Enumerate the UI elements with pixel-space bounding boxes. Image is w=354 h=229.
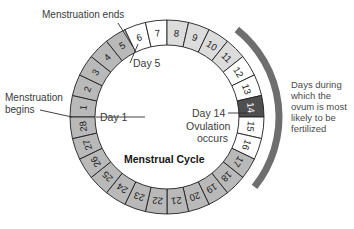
side-note-line-2: which the bbox=[290, 90, 331, 101]
side-note-line-5: fertilized bbox=[291, 123, 326, 134]
day-number-label: 28 bbox=[77, 121, 89, 133]
callout-menstruation-begins-2: begins bbox=[5, 104, 34, 115]
day-number-label: 21 bbox=[171, 195, 183, 207]
center-label-ovulation-1: Ovulation bbox=[186, 120, 231, 132]
cycle-title: Menstrual Cycle bbox=[124, 153, 205, 165]
callout-menstruation-begins-1: Menstruation bbox=[5, 92, 63, 103]
center-label-day5: Day 5 bbox=[133, 57, 161, 69]
cycle-wheel-svg: 1234567891011121314151617181920212223242… bbox=[0, 0, 354, 229]
center-label-day14: Day 14 bbox=[192, 107, 225, 119]
side-note-line-1: Days during bbox=[291, 79, 342, 90]
leader-menstruation-begins bbox=[40, 110, 72, 117]
day-number-label: 15 bbox=[245, 121, 257, 133]
center-label-ovulation-2: occurs bbox=[197, 132, 228, 144]
menstrual-cycle-diagram: 1234567891011121314151617181920212223242… bbox=[0, 0, 354, 229]
side-note-line-4: likely to be bbox=[291, 112, 336, 123]
day-number-label: 22 bbox=[152, 195, 164, 207]
day-number-label: 14 bbox=[245, 102, 257, 114]
center-label-day1: Day 1 bbox=[100, 111, 128, 123]
callout-menstruation-ends: Menstruation ends bbox=[42, 9, 124, 20]
side-note-line-3: ovum is most bbox=[291, 101, 347, 112]
